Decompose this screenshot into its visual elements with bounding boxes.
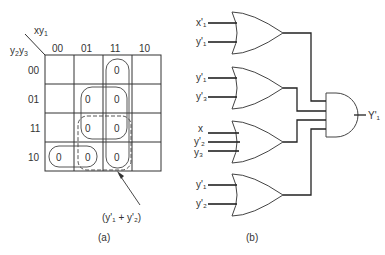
caption-a: (a) (98, 232, 110, 243)
svg-text:y'₂: y'₂ (194, 136, 205, 147)
kmap-cells: 0 0 0 0 0 0 0 0 (56, 65, 120, 163)
svg-text:0: 0 (85, 123, 91, 134)
svg-text:y'₂: y'₂ (196, 198, 207, 209)
and-gate (326, 93, 358, 137)
svg-text:(y'₁ + y'₂): (y'₁ + y'₂) (102, 212, 141, 223)
svg-text:x: x (198, 123, 203, 134)
svg-text:00: 00 (28, 65, 40, 76)
diagram-canvas: xy1 y2y3 00 01 11 10 00 01 11 10 0 0 0 0… (0, 0, 385, 255)
svg-text:01: 01 (28, 94, 40, 105)
svg-text:xy1: xy1 (34, 25, 48, 37)
svg-text:y2y3: y2y3 (10, 45, 28, 57)
svg-text:0: 0 (114, 152, 120, 163)
svg-text:0: 0 (114, 123, 120, 134)
svg-text:0: 0 (56, 152, 62, 163)
svg-text:11: 11 (110, 43, 121, 54)
svg-text:y'₁: y'₁ (196, 179, 207, 190)
svg-text:y₃: y₃ (194, 147, 203, 158)
svg-text:x'₁: x'₁ (196, 17, 207, 28)
svg-text:0: 0 (85, 94, 91, 105)
input-labels: x'₁ y'₁ y'₁ y'₃ x y'₂ y₃ y'₁ y'₂ (194, 17, 207, 209)
svg-text:11: 11 (30, 123, 41, 134)
or-gate-1 (232, 12, 283, 54)
or-gate-4 (232, 174, 283, 216)
svg-text:01: 01 (81, 43, 93, 54)
svg-text:0: 0 (114, 65, 120, 76)
kmap-corner: xy1 y2y3 (10, 25, 48, 57)
connection-wires (283, 33, 366, 195)
svg-text:10: 10 (28, 152, 40, 163)
svg-text:y'₁: y'₁ (196, 72, 207, 83)
output-label: Y'₁ (368, 110, 381, 121)
svg-text:0: 0 (85, 152, 91, 163)
svg-text:y'₃: y'₃ (196, 91, 207, 102)
kmap-grid (45, 55, 161, 171)
or-gate-2 (232, 67, 283, 109)
kmap-row-headers: 00 01 11 10 (28, 65, 41, 163)
svg-text:y'₁: y'₁ (196, 36, 207, 47)
input-wires (208, 23, 240, 204)
annotation-arrow: (y'₁ + y'₂) (102, 171, 141, 223)
svg-text:0: 0 (114, 94, 120, 105)
svg-text:00: 00 (52, 43, 64, 54)
kmap-col-headers: 00 01 11 10 (52, 43, 151, 54)
caption-b: (b) (246, 232, 258, 243)
svg-text:10: 10 (139, 43, 151, 54)
